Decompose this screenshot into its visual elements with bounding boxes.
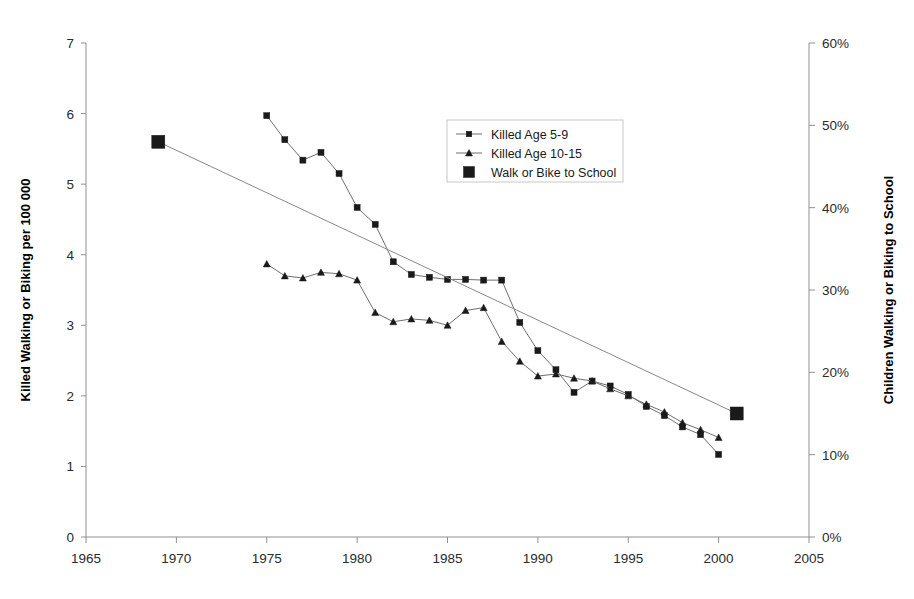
y2-tick-label: 30% <box>822 283 849 298</box>
y-tick-label: 3 <box>66 318 74 333</box>
data-point-marker <box>264 113 270 119</box>
y2-tick-label: 40% <box>822 201 849 216</box>
data-point-marker <box>661 409 668 416</box>
data-point-marker <box>481 277 487 283</box>
data-point-marker <box>463 276 469 282</box>
data-point-marker <box>730 407 743 420</box>
axes-group <box>86 43 809 537</box>
legend-label: Killed Age 5-9 <box>491 128 568 142</box>
x-tick-label: 1990 <box>523 551 553 566</box>
y-axis-right-ticks: 0%10%20%30%40%50%60% <box>809 36 849 545</box>
y-tick-label: 1 <box>66 459 74 474</box>
data-point-marker <box>466 131 472 137</box>
data-point-marker <box>282 137 288 143</box>
y2-tick-label: 50% <box>822 118 849 133</box>
data-point-marker <box>499 277 505 283</box>
y2-tick-label: 10% <box>822 448 849 463</box>
series-killed-age-10-15-line <box>267 264 719 438</box>
axis-title-left: Killed Walking or Biking per 100 000 <box>18 179 33 402</box>
data-point-marker <box>408 271 414 277</box>
axis-title-right: Children Walking or Biking to School <box>881 176 896 404</box>
data-point-marker <box>354 204 360 210</box>
data-point-marker <box>152 135 165 148</box>
chart-container: 01234567 0%10%20%30%40%50%60% 1965197019… <box>0 0 914 599</box>
data-point-marker <box>390 259 396 265</box>
y2-tick-label: 0% <box>822 530 842 545</box>
data-point-marker <box>426 274 432 280</box>
data-point-marker <box>535 348 541 354</box>
legend-label: Walk or Bike to School <box>491 166 616 180</box>
data-point-marker <box>263 260 270 267</box>
y-tick-label: 5 <box>66 177 74 192</box>
data-point-marker <box>498 338 505 345</box>
data-point-marker <box>697 426 704 433</box>
x-tick-label: 1995 <box>613 551 643 566</box>
y-tick-label: 4 <box>66 248 74 263</box>
x-tick-label: 2005 <box>794 551 824 566</box>
data-point-marker <box>480 304 487 311</box>
x-tick-label: 1985 <box>432 551 462 566</box>
y-axis-left-ticks: 01234567 <box>66 36 86 545</box>
data-point-marker <box>281 272 288 279</box>
x-tick-label: 1975 <box>252 551 282 566</box>
data-point-marker <box>354 277 361 284</box>
data-point-marker <box>372 309 379 316</box>
legend-label: Killed Age 10-15 <box>491 147 582 161</box>
y-tick-label: 2 <box>66 389 74 404</box>
data-point-marker <box>318 149 324 155</box>
data-point-marker <box>517 319 523 325</box>
chart-canvas: 01234567 0%10%20%30%40%50%60% 1965197019… <box>0 0 914 599</box>
x-tick-label: 1980 <box>342 551 372 566</box>
y-axis-left-label: Killed Walking or Biking per 100 000 <box>18 179 33 402</box>
x-axis-ticks: 196519701975198019851990199520002005 <box>71 537 824 566</box>
y2-tick-label: 60% <box>822 36 849 51</box>
data-point-marker <box>716 451 722 457</box>
data-point-marker <box>372 221 378 227</box>
y2-tick-label: 20% <box>822 365 849 380</box>
x-tick-label: 1970 <box>161 551 191 566</box>
data-point-marker <box>336 171 342 177</box>
y-tick-label: 7 <box>66 36 74 51</box>
chart-legend: Killed Age 5-9Killed Age 10-15Walk or Bi… <box>447 120 623 182</box>
x-tick-label: 1965 <box>71 551 101 566</box>
data-point-marker <box>715 434 722 441</box>
data-point-marker <box>300 157 306 163</box>
y-axis-right-label: Children Walking or Biking to School <box>881 176 896 404</box>
series-killed-age-10-15 <box>263 260 722 440</box>
data-point-marker <box>571 389 577 395</box>
y-tick-label: 6 <box>66 107 74 122</box>
series-walk-or-bike-to-school-line <box>158 142 736 414</box>
data-point-marker <box>679 419 686 426</box>
x-tick-label: 2000 <box>704 551 734 566</box>
data-point-marker <box>464 167 475 178</box>
y-tick-label: 0 <box>66 530 74 545</box>
